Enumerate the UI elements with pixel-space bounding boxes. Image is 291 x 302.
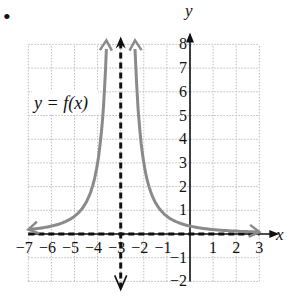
y-tick-label: −1: [170, 249, 187, 266]
x-tick-label: 1: [209, 239, 217, 256]
y-tick-label: 6: [179, 83, 187, 100]
y-tick-label: 5: [179, 107, 187, 124]
y-tick-label: 1: [179, 201, 187, 218]
y-axis-label: y: [183, 1, 193, 20]
x-tick-label: −1: [154, 239, 171, 256]
function-label: y = f(x): [32, 93, 88, 114]
y-tick-label: 4: [179, 130, 187, 147]
y-tick-label: 2: [179, 178, 187, 195]
x-tick-label: −6: [39, 239, 56, 256]
y-tick-label: 8: [179, 35, 187, 52]
x-tick-label: 3: [255, 239, 263, 256]
x-axis-label: x: [275, 225, 284, 244]
x-tick-label: −3: [108, 239, 125, 256]
x-tick-label: −2: [131, 239, 148, 256]
x-tick-label: −7: [16, 239, 33, 256]
x-tick-label: 2: [232, 239, 240, 256]
y-tick-label: −2: [170, 272, 187, 289]
y-tick-label: 3: [179, 154, 187, 171]
y-tick-label: 7: [179, 59, 187, 76]
function-curve: [28, 40, 259, 236]
x-tick-label: −4: [85, 239, 102, 256]
x-tick-label: −5: [62, 239, 79, 256]
graph: −7−6−5−4−3−2−1123−2−112345678 x y y = f(…: [0, 0, 291, 302]
